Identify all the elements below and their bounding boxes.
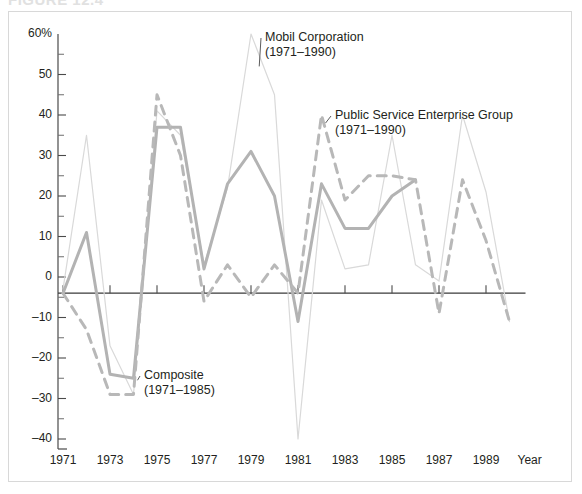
- annotation-psg-title: Public Service Enterprise Group: [335, 108, 513, 122]
- x-tick-label-0: 1971: [40, 453, 86, 467]
- x-tick-label-3: 1977: [181, 453, 227, 467]
- y-tick-label-9: –30: [8, 391, 52, 405]
- figure-caption: FIGURE 12.4: [8, 0, 104, 8]
- axes-group: [58, 34, 67, 449]
- annotation-leader-group: [138, 38, 332, 380]
- x-tick-label-2: 1975: [134, 453, 180, 467]
- x-tick-label-1: 1973: [87, 453, 133, 467]
- line-chart-plot: [9, 12, 571, 481]
- annotation-psg-period: (1971–1990): [335, 123, 513, 138]
- x-axis-title: Year: [518, 453, 542, 467]
- annotation-mobil-title: Mobil Corporation: [265, 30, 364, 44]
- series-group: [63, 34, 510, 439]
- series-line-2: [63, 95, 510, 395]
- annotation-composite-title: Composite: [144, 368, 204, 382]
- annotation-public-service-enterprise-group: Public Service Enterprise Group (1971–19…: [335, 108, 513, 138]
- chart-frame: 60%50403020100–10–20–30–40 1971197319751…: [8, 11, 572, 482]
- y-tick-label-0: 60%: [8, 26, 52, 40]
- x-tick-label-5: 1981: [275, 453, 321, 467]
- series-line-1: [63, 127, 416, 378]
- x-tick-label-7: 1985: [369, 453, 415, 467]
- x-tick-label-8: 1987: [416, 453, 462, 467]
- annotation-composite-period: (1971–1985): [144, 383, 215, 398]
- annotation-mobil-corporation: Mobil Corporation (1971–1990): [265, 30, 364, 60]
- y-tick-label-1: 50: [8, 67, 52, 81]
- y-tick-label-8: –20: [8, 350, 52, 364]
- y-tick-label-2: 40: [8, 107, 52, 121]
- y-tick-label-5: 10: [8, 229, 52, 243]
- annotation-composite: Composite (1971–1985): [144, 368, 215, 398]
- x-tick-label-6: 1983: [322, 453, 368, 467]
- y-tick-label-10: –40: [8, 431, 52, 445]
- y-tick-label-6: 0: [8, 269, 52, 283]
- x-tick-label-9: 1989: [463, 453, 509, 467]
- x-tick-label-4: 1979: [228, 453, 274, 467]
- figure-root: FIGURE 12.4 60%50403020100–10–20–30–40 1…: [0, 0, 582, 494]
- y-tick-label-4: 20: [8, 188, 52, 202]
- y-tick-label-3: 30: [8, 148, 52, 162]
- y-tick-label-7: –10: [8, 310, 52, 324]
- annotation-mobil-period: (1971–1990): [265, 45, 364, 60]
